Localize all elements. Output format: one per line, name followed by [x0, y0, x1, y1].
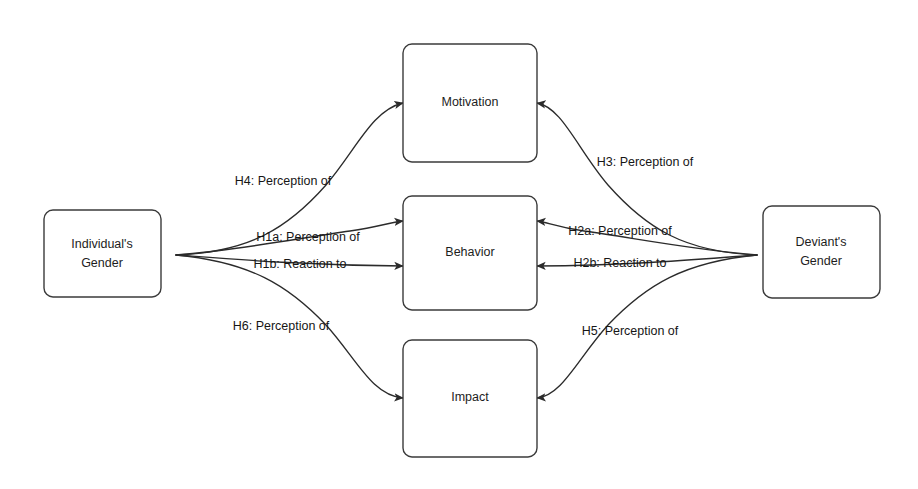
- edge-h2b-label: H2b: Reaction to: [573, 256, 666, 270]
- node-impact[interactable]: Impact: [403, 340, 537, 457]
- diagram-svg: H4: Perception of H1a: Perception of H1b…: [0, 0, 918, 489]
- node-motivation-label: Motivation: [442, 95, 499, 109]
- node-motivation[interactable]: Motivation: [403, 44, 537, 162]
- edge-h2a: H2a: Perception of: [537, 221, 757, 255]
- edge-h6-label: H6: Perception of: [233, 319, 330, 333]
- edge-h3-label: H3: Perception of: [597, 155, 694, 169]
- node-behavior-label: Behavior: [445, 245, 494, 259]
- node-impact-label: Impact: [451, 390, 489, 404]
- node-individuals-gender[interactable]: Individual's Gender: [44, 210, 161, 297]
- edge-h1a-label: H1a: Perception of: [256, 230, 360, 244]
- node-individuals-gender-box[interactable]: [44, 210, 161, 297]
- edge-h2b: H2b: Reaction to: [537, 255, 757, 270]
- node-deviants-gender-box[interactable]: [763, 206, 880, 298]
- node-deviants-gender[interactable]: Deviant's Gender: [763, 206, 880, 298]
- edge-h2a-label: H2a: Perception of: [568, 224, 672, 238]
- diagram-canvas: H4: Perception of H1a: Perception of H1b…: [0, 0, 918, 489]
- edge-h1b-label: H1b: Reaction to: [253, 257, 346, 271]
- node-behavior[interactable]: Behavior: [403, 196, 537, 310]
- node-individuals-gender-label-line1: Individual's: [71, 237, 132, 251]
- edge-h1b: H1b: Reaction to: [176, 255, 403, 271]
- edge-h1a: H1a: Perception of: [176, 221, 403, 255]
- edge-h4-label: H4: Perception of: [235, 174, 332, 188]
- edge-h5: H5: Perception of: [537, 255, 757, 398]
- edge-h5-label: H5: Perception of: [582, 324, 679, 338]
- node-deviants-gender-label-line1: Deviant's: [795, 235, 846, 249]
- edge-h6: H6: Perception of: [176, 255, 403, 398]
- node-individuals-gender-label-line2: Gender: [81, 256, 123, 270]
- node-deviants-gender-label-line2: Gender: [800, 254, 842, 268]
